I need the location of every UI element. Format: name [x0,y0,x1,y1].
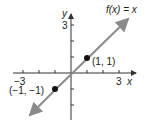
point-1-1 [84,55,90,61]
point-label-1-1: (1, 1) [92,56,115,67]
function-graph: y 3 f(x) = x (1, 1) −3 (−1, −1) 3 x [0,0,146,122]
y-axis-label: y [61,8,68,19]
x-tick-label-3: 3 [116,76,122,87]
y-tick-label-3: 3 [62,20,68,31]
function-label: f(x) = x [106,4,138,15]
point-label-neg1-neg1: (−1, −1) [9,85,44,96]
x-axis-label: x [126,76,133,87]
point-neg1-neg1 [52,86,58,92]
